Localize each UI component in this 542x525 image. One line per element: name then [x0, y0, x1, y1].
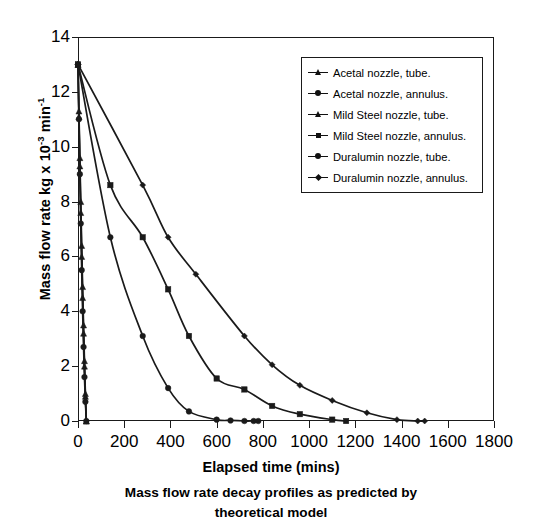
y-axis-tick-label: 10 — [51, 137, 70, 157]
figure-caption-line-1: Mass flow rate decay profiles as predict… — [0, 483, 542, 503]
legend-item-6[interactable]: Duralumin nozzle, annulus. — [307, 167, 476, 188]
x-axis-tick-label: 600 — [202, 432, 230, 452]
legend-marker-icon — [307, 131, 329, 141]
x-axis-tick-label: 1000 — [290, 432, 328, 452]
series-marker — [140, 235, 145, 240]
y-axis-title-unit: min — [37, 106, 53, 136]
series-marker — [214, 376, 219, 381]
series-marker — [165, 287, 170, 292]
x-axis-tick-label: 0 — [73, 432, 82, 452]
y-axis-tick — [72, 147, 79, 148]
legend-item-label: Acetal nozzle, annulus. — [333, 88, 448, 100]
y-axis-title-text: Mass flow rate kg x 10 — [37, 145, 53, 300]
series-marker — [80, 308, 86, 314]
legend-marker-icon — [307, 68, 329, 78]
series-marker — [297, 411, 302, 416]
series-marker — [81, 344, 87, 350]
legend-item-label: Duralumin nozzle, annulus. — [333, 172, 468, 184]
x-axis-title: Elapsed time (mins) — [0, 459, 542, 475]
series-marker — [394, 417, 400, 423]
series-marker — [422, 418, 428, 424]
series-marker — [242, 418, 248, 424]
series-marker — [76, 116, 82, 122]
y-axis-title-exponent-2: -1 — [35, 97, 46, 106]
series-marker — [242, 387, 247, 392]
legend-item-3[interactable]: Mild Steel nozzle, tube. — [307, 104, 476, 125]
series-marker — [108, 234, 114, 240]
series-marker — [140, 182, 146, 188]
y-axis-title-exponent-1: -3 — [35, 136, 46, 145]
x-axis-tick — [355, 421, 356, 428]
series-marker — [228, 418, 234, 424]
x-axis-tick-label: 1400 — [383, 432, 421, 452]
x-axis-tick — [263, 421, 264, 428]
y-axis-tick-label: 8 — [61, 192, 70, 212]
legend-item-5[interactable]: Duralumin nozzle, tube. — [307, 146, 476, 167]
x-axis-tick-label: 1200 — [336, 432, 374, 452]
series-marker — [108, 182, 113, 187]
x-axis-tick — [494, 421, 495, 428]
legend-marker-icon — [307, 152, 329, 162]
y-axis-tick-label: 6 — [61, 246, 70, 266]
series-marker — [82, 374, 88, 380]
series-marker — [83, 399, 89, 405]
x-axis-tick — [78, 421, 79, 428]
y-axis-tick-label: 4 — [61, 301, 70, 321]
legend-item-1[interactable]: Acetal nozzle, tube. — [307, 62, 476, 83]
series-marker — [330, 417, 335, 422]
x-axis-tick-label: 400 — [156, 432, 184, 452]
legend-marker-icon — [307, 89, 329, 99]
x-axis-tick-label: 1600 — [429, 432, 467, 452]
x-axis-tick — [217, 421, 218, 428]
legend-item-label: Acetal nozzle, tube. — [333, 67, 431, 79]
legend: Acetal nozzle, tube.Acetal nozzle, annul… — [301, 57, 483, 193]
y-axis-tick — [72, 92, 79, 93]
series-line — [78, 64, 258, 421]
x-axis-tick — [448, 421, 449, 428]
x-axis-tick-label: 200 — [110, 432, 138, 452]
x-axis-tick-label: 800 — [249, 432, 277, 452]
legend-item-label: Mild Steel nozzle, annulus. — [333, 130, 466, 142]
figure-caption: Mass flow rate decay profiles as predict… — [0, 483, 542, 522]
y-axis-tick — [72, 37, 79, 38]
series-marker — [186, 333, 191, 338]
series-marker — [343, 418, 348, 423]
legend-marker-icon — [307, 110, 329, 120]
x-axis-tick — [402, 421, 403, 428]
legend-marker-icon — [307, 173, 329, 183]
series-marker — [269, 403, 274, 408]
legend-item-label: Mild Steel nozzle, tube. — [333, 109, 449, 121]
y-axis-tick-label: 12 — [51, 82, 70, 102]
series-marker — [415, 418, 421, 424]
y-axis-tick-label: 0 — [61, 411, 70, 431]
series-marker — [78, 221, 84, 227]
series-marker — [84, 418, 90, 424]
series-marker — [186, 409, 192, 415]
figure-caption-line-2: theoretical model — [0, 503, 542, 523]
series-marker — [364, 410, 370, 416]
series-marker — [77, 171, 83, 177]
y-axis-tick — [72, 202, 79, 203]
y-axis-tick-label: 2 — [61, 356, 70, 376]
series-marker — [165, 385, 171, 391]
x-axis-tick — [124, 421, 125, 428]
y-axis-tick — [72, 256, 79, 257]
series-marker — [79, 267, 85, 273]
series-marker — [329, 397, 335, 403]
y-axis-tick-label: 14 — [51, 27, 70, 47]
chart-figure: Mass flow rate kg x 10-3 min-1 024681012… — [0, 0, 542, 525]
y-axis-tick — [72, 311, 79, 312]
series-2 — [75, 62, 261, 424]
y-axis-tick — [72, 366, 79, 367]
x-axis-tick — [309, 421, 310, 428]
x-axis-tick — [170, 421, 171, 428]
x-axis-tick-label: 1800 — [475, 432, 513, 452]
legend-item-2[interactable]: Acetal nozzle, annulus. — [307, 83, 476, 104]
legend-item-4[interactable]: Mild Steel nozzle, annulus. — [307, 125, 476, 146]
legend-item-label: Duralumin nozzle, tube. — [333, 151, 451, 163]
series-marker — [255, 418, 261, 424]
series-marker — [140, 333, 146, 339]
